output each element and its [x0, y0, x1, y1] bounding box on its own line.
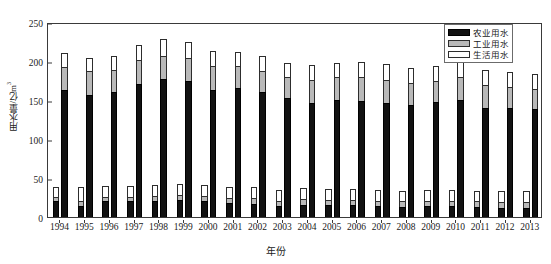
stacked-bar[interactable] [102, 186, 108, 217]
x-tick-label: 1995 [75, 222, 94, 232]
bar-segment-indus [136, 60, 142, 83]
x-tick-label: 2006 [347, 222, 366, 232]
bar-segment-dom [350, 189, 356, 200]
x-tick-label: 2013 [520, 222, 539, 232]
bar-segment-dom [251, 187, 257, 198]
stacked-bar[interactable] [334, 63, 340, 217]
legend-item-agri[interactable]: 农业用水 [448, 27, 509, 38]
bar-segment-indus [334, 77, 340, 100]
stacked-bar[interactable] [532, 74, 538, 217]
bar-segment-dom [111, 56, 117, 70]
bar-segment-agri [251, 204, 257, 217]
x-tick-label: 2008 [396, 222, 415, 232]
bar-group [350, 24, 365, 217]
bar-segment-dom [325, 189, 331, 200]
bar-segment-agri [309, 103, 315, 217]
bar-segment-indus [408, 83, 414, 105]
bar-segment-dom [383, 64, 389, 80]
x-tick-label: 2007 [372, 222, 391, 232]
bar-group [177, 24, 192, 217]
stacked-bar[interactable] [136, 45, 142, 217]
stacked-bar[interactable] [61, 53, 67, 217]
stacked-bar[interactable] [375, 190, 381, 217]
x-tick-label: 1999 [174, 222, 193, 232]
bar-segment-indus [358, 77, 364, 100]
stacked-bar[interactable] [383, 64, 389, 217]
stacked-bar[interactable] [276, 190, 282, 217]
bar-segment-agri [102, 201, 108, 217]
stacked-bar[interactable] [449, 190, 455, 217]
stacked-bar[interactable] [127, 186, 133, 217]
stacked-bar[interactable] [111, 56, 117, 217]
bar-group [78, 24, 93, 217]
y-tick-label: 250 [29, 19, 48, 29]
legend-item-dom[interactable]: 生活用水 [448, 49, 509, 60]
bar-segment-dom [160, 39, 166, 55]
stacked-bar[interactable] [53, 187, 59, 217]
legend-swatch-icon [448, 29, 470, 36]
bar-segment-agri [457, 100, 463, 217]
stacked-bar[interactable] [210, 51, 216, 217]
bar-group [251, 24, 266, 217]
bar-segment-indus [210, 66, 216, 89]
bar-segment-agri [325, 205, 331, 217]
stacked-bar[interactable] [86, 58, 92, 217]
stacked-bar[interactable] [424, 190, 430, 217]
bar-segment-dom [284, 63, 290, 77]
bar-segment-agri [226, 203, 232, 217]
bar-segment-agri [210, 90, 216, 217]
legend: 农业用水工业用水生活用水 [444, 24, 513, 63]
stacked-bar[interactable] [457, 62, 463, 217]
stacked-bar[interactable] [185, 42, 191, 217]
stacked-bar[interactable] [408, 68, 414, 217]
bar-segment-dom [210, 51, 216, 67]
bar-segment-dom [61, 53, 67, 67]
x-tick-label: 2011 [471, 222, 490, 232]
stacked-bar[interactable] [433, 66, 439, 217]
stacked-bar[interactable] [251, 187, 257, 217]
y-tick-label: 50 [34, 175, 49, 185]
stacked-bar[interactable] [152, 185, 158, 217]
bar-segment-dom [433, 66, 439, 81]
bar-segment-dom [482, 70, 488, 86]
legend-item-indus[interactable]: 工业用水 [448, 38, 509, 49]
stacked-bar[interactable] [399, 191, 405, 217]
stacked-bar[interactable] [309, 65, 315, 217]
stacked-bar[interactable] [177, 184, 183, 217]
bar-segment-agri [383, 103, 389, 217]
stacked-bar[interactable] [325, 189, 331, 217]
bar-segment-agri [408, 105, 414, 217]
legend-swatch-icon [448, 51, 470, 58]
stacked-bar[interactable] [259, 56, 265, 217]
stacked-bar[interactable] [482, 70, 488, 217]
stacked-bar[interactable] [160, 39, 166, 217]
bar-segment-indus [160, 56, 166, 79]
bar-segment-dom [152, 185, 158, 196]
stacked-bar[interactable] [474, 191, 480, 217]
stacked-bar[interactable] [201, 185, 207, 217]
stacked-bar[interactable] [358, 62, 364, 217]
bar-segment-dom [300, 188, 306, 199]
legend-swatch-icon [448, 40, 470, 47]
bar-segment-agri [111, 92, 117, 217]
stacked-bar[interactable] [284, 63, 290, 217]
bar-group [375, 24, 390, 217]
bar-segment-agri [53, 201, 59, 217]
bar-group [399, 24, 414, 217]
stacked-bar[interactable] [78, 187, 84, 217]
stacked-bar[interactable] [300, 188, 306, 217]
stacked-bar[interactable] [507, 72, 513, 217]
bar-segment-dom [507, 72, 513, 87]
bar-segment-agri [375, 206, 381, 217]
bar-segment-dom [259, 56, 265, 71]
stacked-bar[interactable] [498, 191, 504, 217]
stacked-bar[interactable] [235, 52, 241, 217]
bar-group [300, 24, 315, 217]
stacked-bar[interactable] [523, 191, 529, 217]
x-tick-label: 2010 [446, 222, 465, 232]
bar-segment-dom [375, 190, 381, 201]
bar-segment-agri [532, 109, 538, 217]
bar-segment-indus [111, 70, 117, 92]
stacked-bar[interactable] [226, 187, 232, 217]
stacked-bar[interactable] [350, 189, 356, 217]
